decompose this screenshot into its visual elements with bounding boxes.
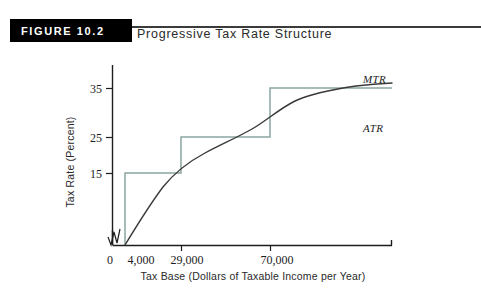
series-label-mtr: MTR <box>362 73 386 85</box>
y-axis-title: Tax Rate (Percent) <box>64 116 76 207</box>
x-axis-title: Tax Base (Dollars of Taxable Income per … <box>141 270 366 282</box>
figure-number-label: FIGURE 10.2 <box>10 25 105 37</box>
tax-rate-chart: 15 25 35 0 4,000 29,000 70,000 MTR ATR T… <box>0 52 481 292</box>
y-tick-label-25: 25 <box>90 131 102 145</box>
chart-container: 15 25 35 0 4,000 29,000 70,000 MTR ATR T… <box>0 52 481 292</box>
series-atr-curve <box>125 83 392 245</box>
series-label-atr: ATR <box>362 122 383 134</box>
y-tick-label-35: 35 <box>90 82 102 96</box>
series-mtr-step <box>125 88 392 245</box>
y-tick-label-15: 15 <box>90 167 102 181</box>
x-tick-label-70000: 70,000 <box>261 253 294 267</box>
figure-number-badge: FIGURE 10.2 <box>10 19 132 42</box>
figure-header: FIGURE 10.2 Progressive Tax Rate Structu… <box>0 0 481 52</box>
figure-title: Progressive Tax Rate Structure <box>137 27 332 41</box>
x-tick-label-0: 0 <box>107 253 113 267</box>
axis-break-zigzag <box>108 229 120 245</box>
x-tick-label-4000: 4,000 <box>128 253 155 267</box>
x-tick-label-29000: 29,000 <box>171 253 204 267</box>
